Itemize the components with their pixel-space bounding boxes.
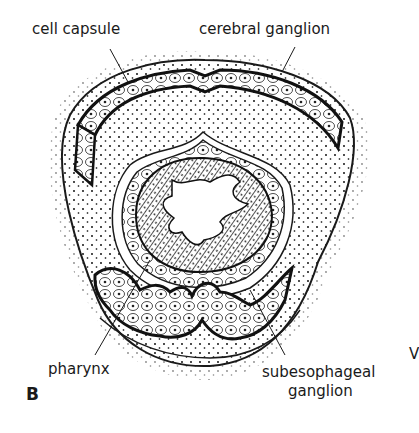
label-cell-capsule: cell capsule <box>32 22 120 37</box>
label-ganglion: ganglion <box>288 384 353 399</box>
label-subesophageal: subesophageal <box>262 365 375 380</box>
panel-letter: B <box>26 384 39 404</box>
label-pharynx: pharynx <box>48 362 110 377</box>
edge-fragment: V <box>409 347 419 362</box>
label-cerebral-ganglion: cerebral ganglion <box>199 22 330 37</box>
